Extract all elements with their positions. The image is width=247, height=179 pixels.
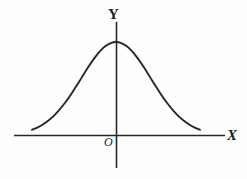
bell-curve-plot — [0, 0, 247, 179]
bell-curve-figure: Y X O — [0, 0, 247, 179]
origin-label: O — [104, 136, 113, 148]
y-axis-label: Y — [108, 7, 119, 22]
x-axis-label: X — [227, 128, 237, 143]
